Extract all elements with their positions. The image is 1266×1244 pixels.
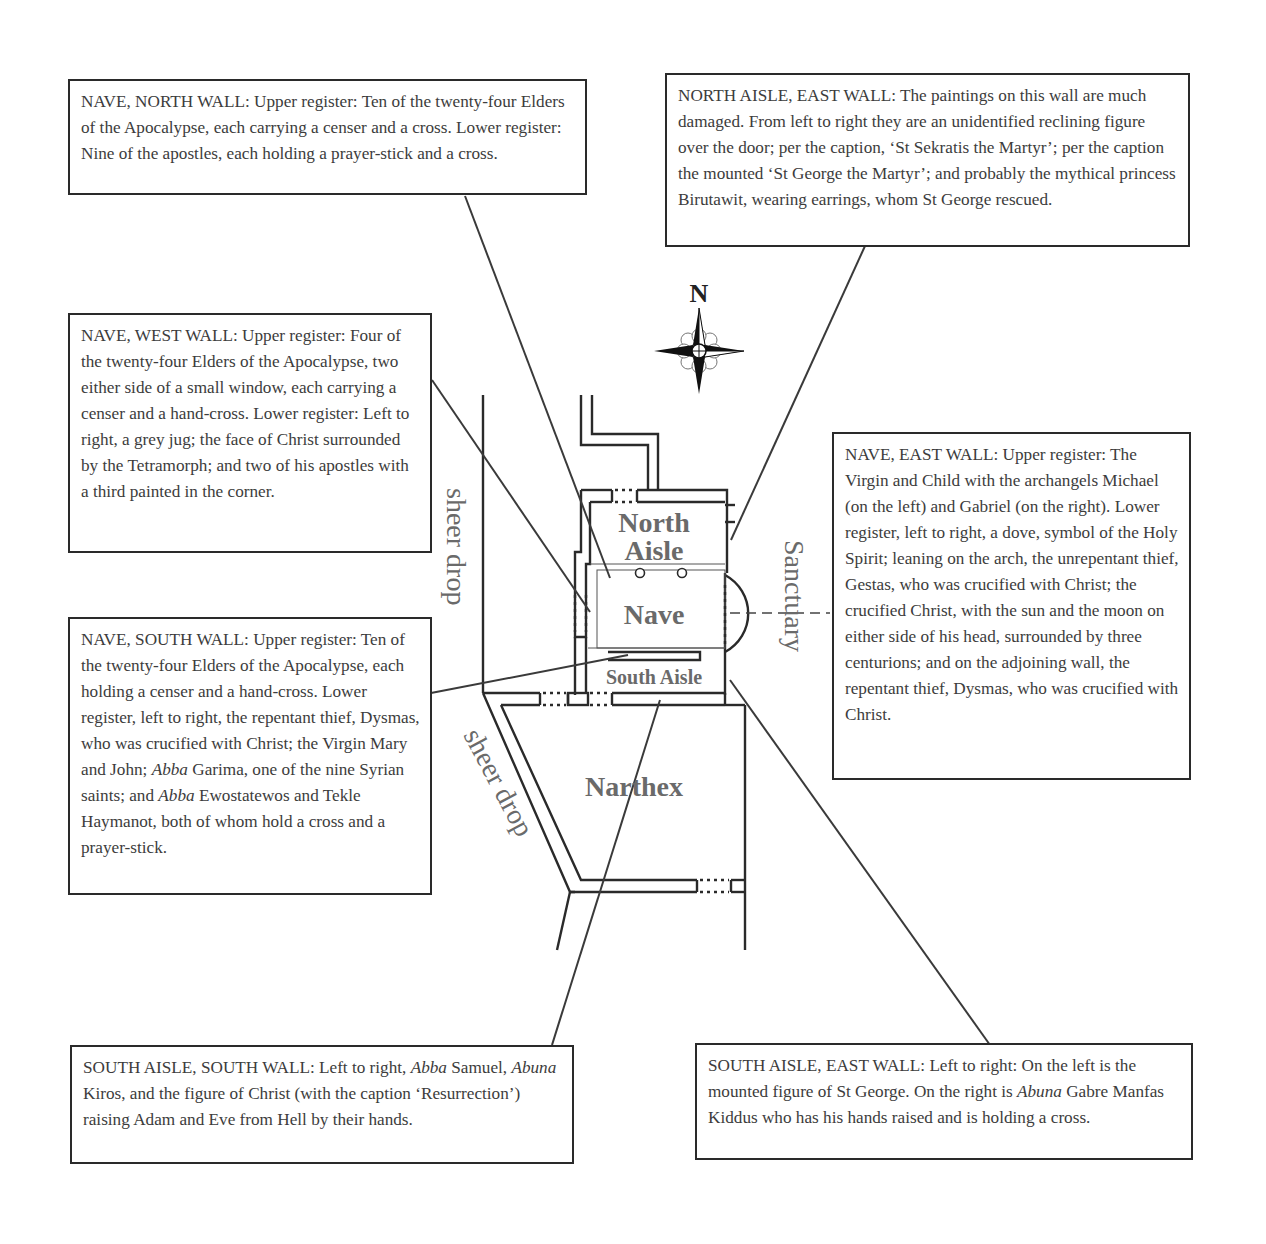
callout-heading: NAVE, SOUTH WALL:: [81, 630, 249, 649]
callout-nave-west-wall: NAVE, WEST WALL: Upper register: Four of…: [68, 313, 432, 553]
compass-north-label: N: [690, 279, 709, 308]
callout-text: Kiros, and the figure of Christ (with th…: [83, 1084, 520, 1129]
callout-italic-abba: Abba: [152, 760, 188, 779]
callout-heading: SOUTH AISLE, SOUTH WALL:: [83, 1058, 315, 1077]
callout-heading: NAVE, NORTH WALL:: [81, 92, 250, 111]
label-north-aisle-2: Aisle: [624, 535, 683, 566]
callout-heading: NAVE, EAST WALL:: [845, 445, 998, 464]
label-sanctuary: Sanctuary: [779, 540, 810, 652]
callout-italic-abuna: Abuna: [511, 1058, 556, 1077]
callout-text: Left to right,: [319, 1058, 411, 1077]
callout-italic-abba: Abba: [411, 1058, 447, 1077]
compass-rose-icon: N: [654, 279, 744, 394]
callout-nave-south-wall: NAVE, SOUTH WALL: Upper register: Ten of…: [68, 617, 432, 895]
callout-text: Samuel,: [447, 1058, 511, 1077]
callout-text: Upper register: Four of the twenty-four …: [81, 326, 409, 501]
label-north-aisle-1: North: [618, 507, 690, 538]
callout-south-aisle-east-wall: SOUTH AISLE, EAST WALL: Left to right: O…: [695, 1043, 1193, 1160]
callout-heading: NORTH AISLE, EAST WALL:: [678, 86, 896, 105]
callout-text: Upper register: The Virgin and Child wit…: [845, 445, 1179, 724]
callout-italic-abba: Abba: [158, 786, 194, 805]
label-sheer-drop-2: sheer drop: [458, 723, 540, 841]
label-nave: Nave: [624, 599, 685, 630]
callout-text: Upper register: Ten of the twenty-four E…: [81, 630, 420, 779]
callout-heading: NAVE, WEST WALL:: [81, 326, 238, 345]
callout-heading: SOUTH AISLE, EAST WALL:: [708, 1056, 925, 1075]
callout-north-aisle-east-wall: NORTH AISLE, EAST WALL: The paintings on…: [665, 73, 1190, 247]
label-sheer-drop-1: sheer drop: [441, 488, 472, 605]
callout-nave-east-wall: NAVE, EAST WALL: Upper register: The Vir…: [832, 432, 1191, 780]
label-narthex: Narthex: [585, 771, 683, 802]
callout-south-aisle-south-wall: SOUTH AISLE, SOUTH WALL: Left to right, …: [70, 1045, 574, 1164]
callout-nave-north-wall: NAVE, NORTH WALL: Upper register: Ten of…: [68, 79, 587, 195]
label-south-aisle: South Aisle: [606, 666, 702, 688]
callout-italic-abuna: Abuna: [1017, 1082, 1062, 1101]
